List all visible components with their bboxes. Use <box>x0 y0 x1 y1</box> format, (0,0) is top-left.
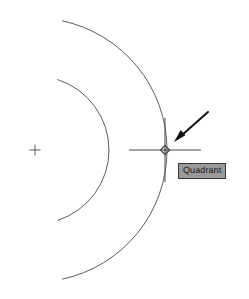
drawing-canvas[interactable]: Quadrant <box>0 0 249 299</box>
quadrant-snap-tooltip: Quadrant <box>178 163 226 179</box>
inner-arc[interactable] <box>58 80 109 221</box>
cad-vector-layer <box>0 0 249 299</box>
pointer-arrow-icon <box>174 112 208 142</box>
center-mark-icon <box>30 145 41 156</box>
